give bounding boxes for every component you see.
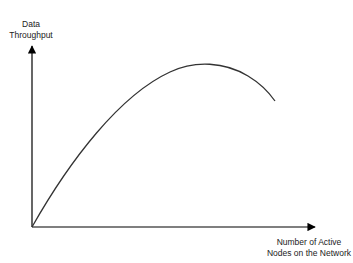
y-axis-label: Data Throughput [5,19,57,41]
x-axis-label-line-2: Nodes on the Network [265,248,353,259]
x-axis-label: Number of Active Nodes on the Network [265,237,353,259]
x-axis-label-line-1: Number of Active [265,237,353,248]
y-axis-label-line-2: Throughput [5,30,57,41]
y-axis-label-line-1: Data [5,19,57,30]
throughput-curve [32,64,275,227]
